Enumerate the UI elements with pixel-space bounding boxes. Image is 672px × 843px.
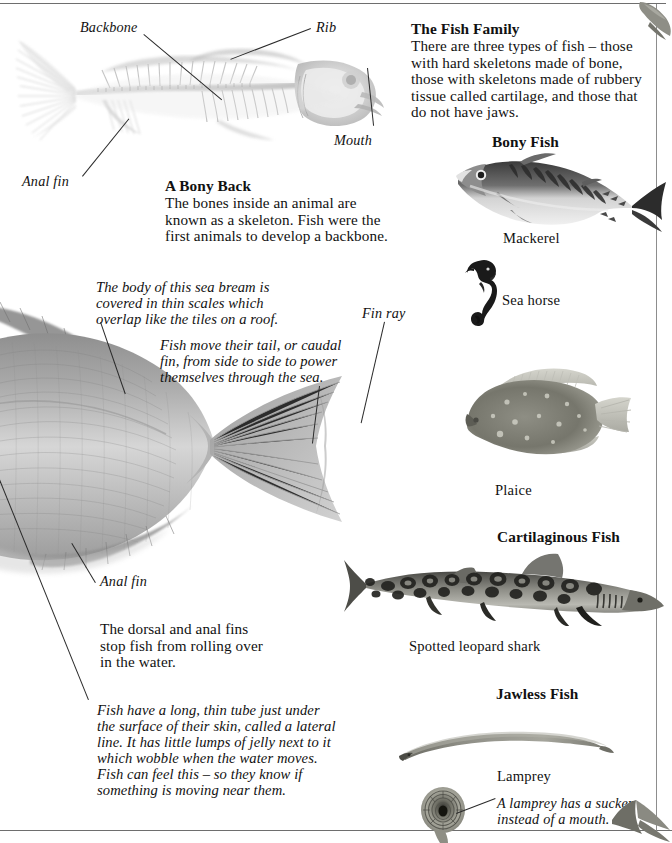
fish-family-line-3: those with skeletons made of rubbery — [411, 70, 642, 87]
lateral-line-6: something is moving near them. — [97, 782, 286, 798]
lateral-line-3: line. It has little lumps of jelly next … — [97, 734, 331, 750]
corner-fish-tail-top-image — [636, 0, 672, 46]
sea-bream-caudal-note: Fish move their tail, or caudalfin, from… — [160, 337, 341, 385]
caudal-line-1: Fish move their tail, or caudal — [160, 337, 341, 353]
label-anal-fin-bream: Anal fin — [100, 573, 147, 589]
fish-family-heading: The Fish Family — [411, 20, 520, 38]
group-heading-cartilaginous-fish: Cartilaginous Fish — [497, 528, 620, 546]
caption-lamprey: Lamprey — [497, 768, 551, 785]
lamprey-note-line-2: instead of a mouth. — [497, 811, 610, 827]
bony-back-line-3: first animals to develop a backbone. — [165, 227, 388, 244]
fish-family-line-1: There are three types of fish – those — [411, 37, 633, 54]
bony-back-line-2: known as a skeleton. Fish were the — [165, 211, 381, 228]
scales-line-2: covered in thin scales which — [96, 295, 264, 311]
scales-line-1: The body of this sea bream is — [96, 279, 269, 295]
corner-fish-tail-image — [610, 800, 672, 843]
sea-horse-image — [464, 258, 500, 328]
caption-plaice: Plaice — [495, 482, 532, 499]
lateral-line-2: the surface of their skin, called a late… — [97, 718, 336, 734]
sea-bream-scales-note: The body of this sea bream iscovered in … — [96, 279, 278, 327]
sea-bream-dorsal-note: The dorsal and anal finsstop fish from r… — [100, 621, 263, 671]
bottom-rule — [0, 830, 672, 831]
dorsal-line-3: in the water. — [100, 653, 176, 670]
spotted-leopard-shark-image — [340, 550, 668, 626]
fish-skeleton-image — [6, 18, 386, 168]
top-rule — [0, 3, 666, 4]
label-mouth: Mouth — [334, 132, 372, 148]
fish-family-line-4: tissue called cartilage, and those that — [411, 87, 638, 104]
group-heading-jawless-fish: Jawless Fish — [496, 685, 578, 703]
caption-spotted-leopard-shark: Spotted leopard shark — [409, 638, 540, 655]
label-anal-fin-skeleton: Anal fin — [22, 173, 69, 189]
lateral-line-1: Fish have a long, thin tube just under — [97, 702, 320, 718]
dorsal-line-1: The dorsal and anal fins — [100, 620, 248, 637]
a-bony-back-paragraph: The bones inside an animal areknown as a… — [165, 195, 388, 245]
lateral-line-4: which wobble when the water moves. — [97, 750, 318, 766]
right-rule — [656, 4, 657, 831]
mackerel-image — [450, 152, 672, 247]
caption-mackerel: Mackerel — [503, 230, 560, 247]
sea-bream-lateral-line-note: Fish have a long, thin tube just underth… — [97, 702, 336, 798]
scales-line-3: overlap like the tiles on a roof. — [96, 311, 278, 327]
fish-family-line-2: with hard skeletons made of bone, — [411, 54, 623, 71]
fish-family-paragraph: There are three types of fish – thosewit… — [411, 38, 642, 121]
a-bony-back-heading: A Bony Back — [165, 177, 251, 195]
lateral-line-5: Fish can feel this – so they know if — [97, 766, 302, 782]
caudal-line-2: fin, from side to side to power — [160, 353, 337, 369]
label-rib: Rib — [316, 19, 336, 35]
caudal-line-3: themselves through the sea. — [160, 369, 323, 385]
plaice-image — [455, 346, 635, 478]
bony-back-line-1: The bones inside an animal are — [165, 194, 357, 211]
label-backbone: Backbone — [80, 19, 138, 35]
lamprey-image — [395, 726, 615, 768]
label-fin-ray: Fin ray — [362, 305, 406, 321]
fish-family-line-5: do not have jaws. — [411, 103, 519, 120]
book-page: Backbone Rib Mouth Anal fin A Bony Back … — [0, 0, 672, 843]
caption-sea-horse: Sea horse — [502, 292, 560, 309]
dorsal-line-2: stop fish from rolling over — [100, 637, 263, 654]
group-heading-bony-fish: Bony Fish — [492, 133, 559, 151]
lamprey-sucker-image — [418, 786, 470, 843]
